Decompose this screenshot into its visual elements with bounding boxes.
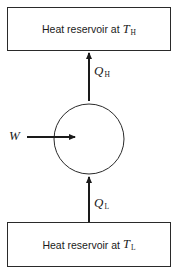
heat-out-label: QH bbox=[94, 63, 110, 79]
cold-reservoir-label: Heat reservoir at bbox=[42, 239, 120, 251]
work-label: W bbox=[9, 128, 20, 144]
cold-reservoir-temperature: TL bbox=[123, 237, 136, 252]
cold-reservoir-box: Heat reservoir at TL bbox=[7, 222, 171, 267]
heat-in-label: QL bbox=[94, 195, 109, 211]
device-circle bbox=[54, 104, 124, 174]
